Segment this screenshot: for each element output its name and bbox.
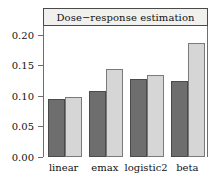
y-axis-tick-label: 0.20 (12, 30, 38, 41)
x-axis-tick-label: emax (91, 162, 118, 173)
x-axis-tick-label: logistic2 (125, 162, 168, 173)
bar-group (44, 26, 85, 157)
bar (147, 75, 164, 157)
bar (171, 81, 188, 157)
y-axis-tick-label: 0.05 (12, 121, 38, 132)
x-axis-tick-label: beta (176, 162, 198, 173)
bar-group (168, 26, 209, 157)
bar-group (127, 26, 168, 157)
y-axis-tick-label: 0.10 (12, 91, 38, 102)
bar (130, 79, 147, 157)
bar (106, 69, 123, 157)
y-axis-tick-label: 0.15 (12, 60, 38, 71)
x-axis: linearemaxlogistic2beta (43, 157, 208, 181)
strip-header: Dose−response estimation (43, 8, 208, 26)
chart-figure: Dose−response estimation 0.000.050.100.1… (0, 0, 217, 195)
bar (48, 99, 65, 157)
plot-panel (43, 26, 208, 157)
x-axis-tick-label: linear (49, 162, 79, 173)
bar (89, 91, 106, 157)
y-axis-tick-label: 0.00 (12, 152, 38, 163)
chart-title: Dose−response estimation (56, 12, 194, 23)
bar (188, 43, 205, 157)
y-axis: 0.000.050.100.150.20 (0, 26, 43, 157)
bars-container (44, 26, 207, 157)
bar-group (85, 26, 126, 157)
bar (65, 97, 82, 157)
